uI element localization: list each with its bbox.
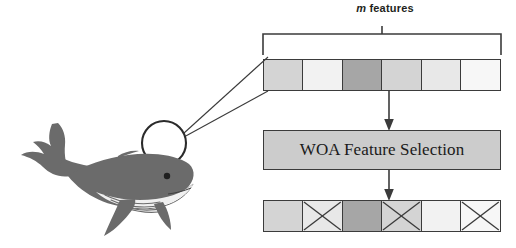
feature-removed-x-icon bbox=[382, 201, 421, 231]
arrow-woa-to-output bbox=[382, 169, 396, 201]
features-count-label: m features bbox=[330, 2, 440, 14]
woa-feature-selection-box[interactable]: WOA Feature Selection bbox=[263, 130, 501, 170]
feature-cell-5[interactable] bbox=[421, 200, 462, 232]
feature-removed-x-icon bbox=[303, 201, 342, 231]
woa-feature-selection-label: WOA Feature Selection bbox=[300, 140, 465, 160]
feature-cell-3[interactable] bbox=[342, 59, 383, 91]
whale-eye bbox=[164, 173, 170, 179]
feature-cell-5[interactable] bbox=[421, 59, 462, 91]
features-word: features bbox=[366, 2, 414, 14]
features-variable: m bbox=[356, 2, 366, 14]
feature-cell-6[interactable] bbox=[460, 200, 501, 232]
feature-cell-1[interactable] bbox=[263, 200, 304, 232]
feature-cell-6[interactable] bbox=[460, 59, 501, 91]
feature-cell-2[interactable] bbox=[302, 59, 343, 91]
feature-cell-4[interactable] bbox=[381, 59, 422, 91]
feature-removed-x-icon bbox=[461, 201, 500, 231]
span-bracket bbox=[262, 26, 502, 56]
feature-cell-4[interactable] bbox=[381, 200, 422, 232]
feature-cell-2[interactable] bbox=[302, 200, 343, 232]
feature-vector-input bbox=[263, 59, 501, 91]
arrow-input-to-woa bbox=[382, 90, 396, 131]
whale-illustration bbox=[8, 96, 208, 244]
diagram-canvas: m features WOA Feature Selection bbox=[0, 0, 516, 248]
feature-vector-output bbox=[263, 200, 501, 232]
feature-cell-3[interactable] bbox=[342, 200, 383, 232]
